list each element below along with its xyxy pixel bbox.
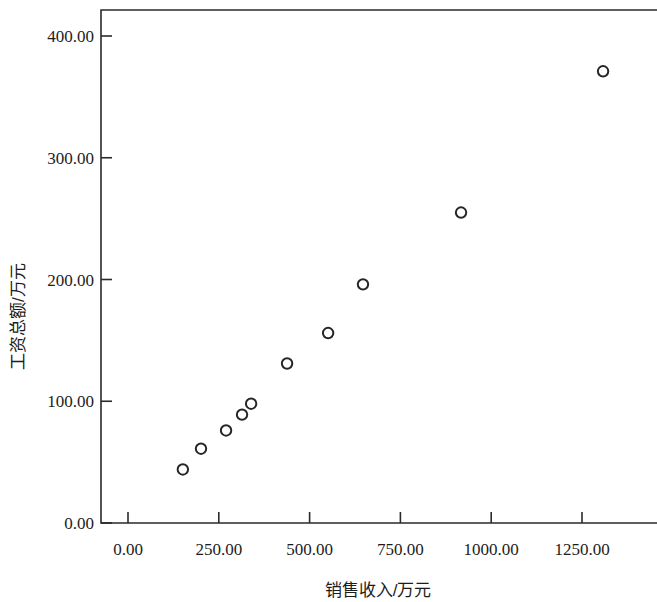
x-tick-label: 500.00 bbox=[286, 540, 333, 559]
data-point-series bbox=[178, 66, 609, 475]
y-tick-label: 0.00 bbox=[64, 514, 94, 533]
chart-canvas: 0.00100.00200.00300.00400.00 0.00250.005… bbox=[0, 0, 657, 602]
scatter-chart-figure: 0.00100.00200.00300.00400.00 0.00250.005… bbox=[0, 0, 657, 602]
y-axis-tick-labels: 0.00100.00200.00300.00400.00 bbox=[47, 27, 94, 533]
data-point-marker bbox=[598, 66, 608, 76]
x-tick-label: 250.00 bbox=[195, 540, 242, 559]
y-tick-label: 400.00 bbox=[47, 27, 94, 46]
data-point-marker bbox=[323, 328, 333, 338]
y-tick-label: 300.00 bbox=[47, 149, 94, 168]
x-tick-label: 1000.00 bbox=[464, 540, 519, 559]
data-point-marker bbox=[246, 398, 256, 408]
x-axis-title: 销售收入/万元 bbox=[325, 581, 432, 600]
y-tick-label: 100.00 bbox=[47, 392, 94, 411]
x-axis-ticks bbox=[128, 512, 582, 523]
x-tick-label: 750.00 bbox=[377, 540, 424, 559]
data-point-marker bbox=[237, 409, 247, 419]
y-axis-title: 工资总额/万元 bbox=[9, 263, 28, 370]
x-tick-label: 0.00 bbox=[113, 540, 143, 559]
y-tick-label: 200.00 bbox=[47, 271, 94, 290]
data-point-marker bbox=[282, 358, 292, 368]
y-axis-ticks bbox=[101, 36, 112, 523]
data-point-marker bbox=[358, 279, 368, 289]
plot-frame-top-left-border bbox=[101, 10, 657, 523]
data-point-marker bbox=[456, 207, 466, 217]
data-point-marker bbox=[196, 444, 206, 454]
data-point-marker bbox=[178, 464, 188, 474]
axis-frame bbox=[101, 10, 657, 523]
data-point-marker bbox=[221, 425, 231, 435]
x-tick-label: 1250.00 bbox=[554, 540, 609, 559]
x-axis-tick-labels: 0.00250.00500.00750.001000.001250.00 bbox=[113, 540, 610, 559]
